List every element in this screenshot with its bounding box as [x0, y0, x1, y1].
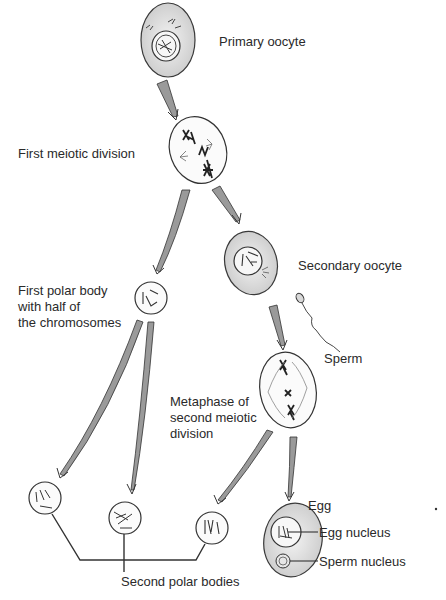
label-primary-oocyte: Primary oocyte	[219, 34, 306, 50]
arrow-metaphase-to-egg	[285, 437, 297, 501]
second-polar-body-1	[29, 482, 61, 514]
stray-dot	[435, 508, 437, 510]
primary-oocyte-cell	[141, 3, 195, 77]
label-egg: Egg	[308, 498, 331, 514]
label-second-polar-bodies: Second polar bodies	[121, 574, 240, 590]
arrow-to-secondary-oocyte	[212, 186, 241, 224]
sperm-cell	[294, 292, 340, 352]
metaphase-second-division-cell	[254, 348, 322, 433]
label-first-meiotic-division: First meiotic division	[18, 146, 135, 162]
first-polar-body-cell	[135, 282, 167, 314]
arrow-to-metaphase	[269, 305, 287, 350]
first-meiotic-division-cell	[160, 108, 236, 191]
second-polar-body-3	[196, 512, 228, 544]
label-secondary-oocyte: Secondary oocyte	[298, 258, 402, 274]
arrow-primary-to-first-division	[157, 80, 178, 120]
label-egg-nucleus: Egg nucleus	[319, 525, 391, 541]
label-first-polar-body: First polar body with half of the chromo…	[18, 283, 121, 331]
label-sperm-nucleus: Sperm nucleus	[319, 554, 406, 570]
secondary-oocyte-cell	[218, 225, 285, 300]
label-metaphase-second-division: Metaphase of second meiotic division	[170, 394, 257, 442]
arrow-polar-body-left	[57, 320, 143, 478]
label-sperm: Sperm	[324, 351, 362, 367]
arrow-to-first-polar-body	[153, 190, 190, 274]
second-polar-body-2	[109, 502, 141, 534]
